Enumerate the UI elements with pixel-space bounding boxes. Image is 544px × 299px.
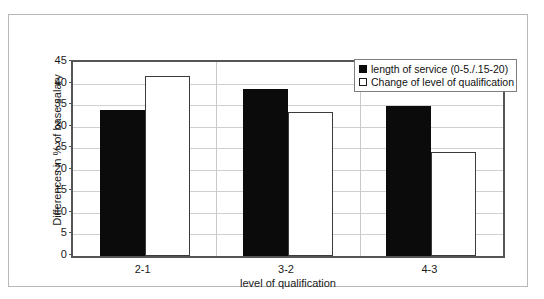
bar-4-3-series1 — [386, 106, 431, 256]
bar-3-2-series2 — [288, 112, 333, 256]
legend-item-2: Change of level of qualification — [359, 76, 512, 88]
figure-frame: 051015202530354045 Differences in % of b… — [8, 14, 528, 287]
x-tick-label-4-3: 4-3 — [421, 263, 437, 275]
legend-swatch-black-icon — [359, 65, 367, 73]
bar-3-2-series1 — [243, 89, 288, 256]
legend-label-1: length of service (0-5./.15-20) — [371, 64, 508, 75]
category-separator-1 — [216, 62, 217, 256]
x-tick-label-3-2: 3-2 — [278, 263, 294, 275]
legend-label-2: Change of level of qualification — [371, 77, 514, 88]
x-tick-label-2-1: 2-1 — [135, 263, 151, 275]
chart-legend: length of service (0-5./.15-20)Change of… — [354, 59, 517, 92]
bar-2-1-series1 — [100, 110, 145, 256]
x-axis-title: level of qualification — [71, 277, 505, 289]
legend-swatch-white-icon — [359, 78, 367, 86]
chart-screenshot: 051015202530354045 Differences in % of b… — [0, 0, 544, 299]
bar-2-1-series2 — [145, 76, 190, 256]
y-axis-title-container: Differences in % of base salary — [31, 60, 45, 258]
y-axis-title: Differences in % of base salary — [51, 51, 63, 249]
legend-item-1: length of service (0-5./.15-20) — [359, 63, 512, 75]
gridline-35 — [73, 105, 503, 106]
bar-4-3-series2 — [431, 152, 476, 256]
y-tick-label-0: 0 — [61, 248, 67, 260]
